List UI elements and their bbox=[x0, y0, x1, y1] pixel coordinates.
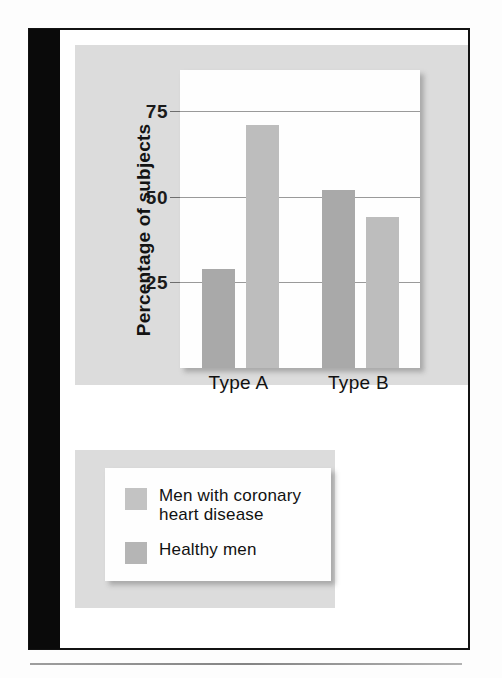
legend-swatch-healthy-icon bbox=[125, 542, 147, 564]
bar-type-a-chd bbox=[202, 269, 235, 368]
tick-stub-50 bbox=[170, 197, 180, 198]
plot-area bbox=[180, 70, 420, 368]
bar-type-b-chd bbox=[322, 190, 355, 368]
legend-label-chd-line1: Men with coronary bbox=[159, 486, 301, 505]
legend-box: Men with coronary heart disease Healthy … bbox=[105, 468, 331, 581]
y-axis-title: Percentage of subjects bbox=[133, 80, 155, 380]
x-category-label-type-a: Type A bbox=[181, 372, 296, 394]
tick-stub-75 bbox=[170, 111, 180, 112]
bottom-rule bbox=[30, 663, 462, 665]
legend-label-chd-line2: heart disease bbox=[159, 505, 264, 524]
legend-item-chd: Men with coronary heart disease bbox=[125, 486, 301, 524]
gridline-75 bbox=[180, 111, 420, 112]
legend-swatch-chd-icon bbox=[125, 488, 147, 510]
bar-type-b-healthy bbox=[366, 217, 399, 368]
gridline-50 bbox=[180, 197, 420, 198]
tick-stub-25 bbox=[170, 282, 180, 283]
page-background: 75 50 25 Percentage of subjects Type A T… bbox=[0, 0, 502, 678]
book-gutter-bar bbox=[29, 29, 60, 649]
legend-item-healthy: Healthy men bbox=[125, 540, 257, 564]
x-category-label-type-b: Type B bbox=[301, 372, 416, 394]
legend-label-chd: Men with coronary heart disease bbox=[159, 486, 301, 524]
legend-label-healthy: Healthy men bbox=[159, 540, 257, 559]
bar-type-a-healthy bbox=[246, 125, 279, 368]
